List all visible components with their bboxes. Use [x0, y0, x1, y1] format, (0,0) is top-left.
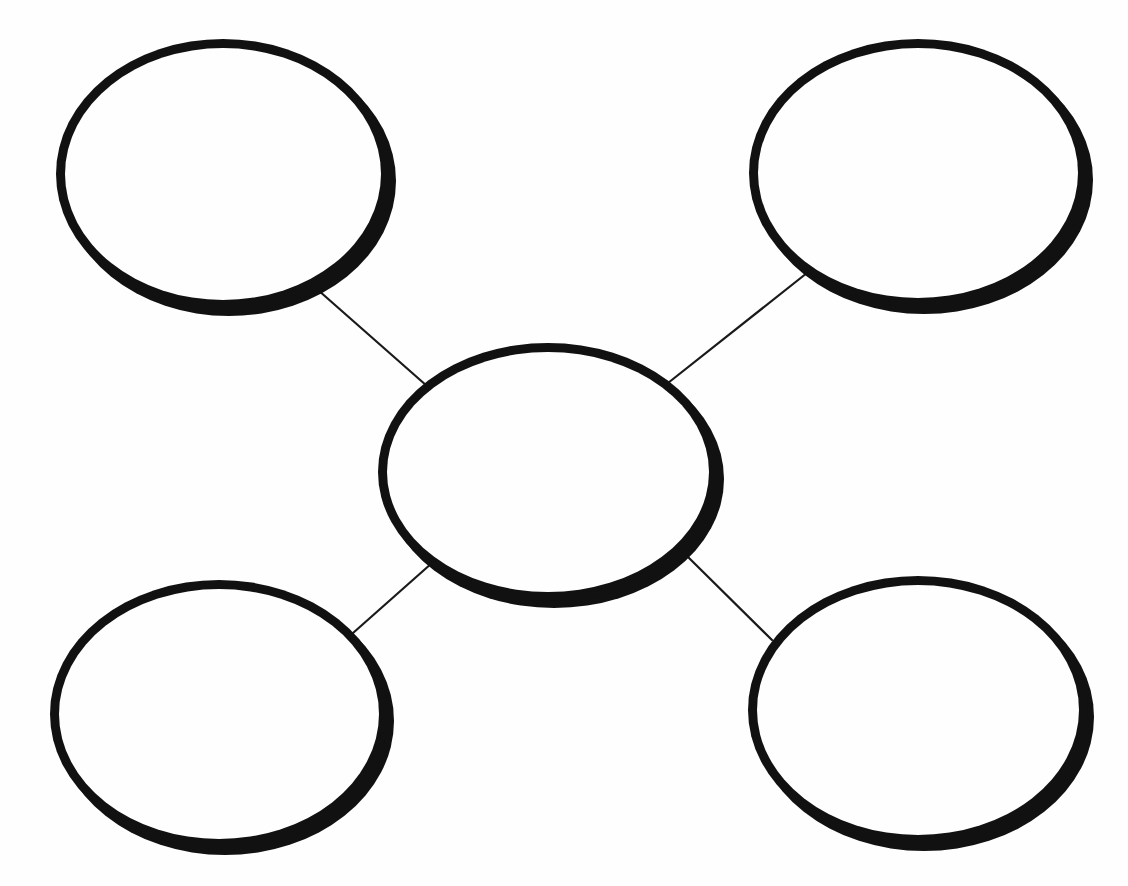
- node-bottom-left-fill: [59, 589, 379, 839]
- connector-center-to-top-left: [318, 290, 427, 386]
- node-center[interactable]: [378, 343, 724, 608]
- concept-map-diagram: [0, 0, 1128, 886]
- node-top-left[interactable]: [56, 39, 396, 316]
- node-bottom-right[interactable]: [748, 576, 1094, 851]
- node-bottom-left[interactable]: [50, 580, 394, 855]
- node-center-fill: [387, 352, 709, 592]
- connector-center-to-bottom-left: [353, 563, 432, 633]
- connector-center-to-top-right: [668, 269, 812, 383]
- node-top-right-fill: [758, 48, 1078, 298]
- node-top-left-fill: [65, 48, 381, 300]
- concept-map-canvas: [0, 0, 1128, 886]
- node-bottom-right-fill: [757, 585, 1079, 835]
- connector-center-to-bottom-right: [688, 557, 772, 640]
- node-top-right[interactable]: [749, 39, 1093, 314]
